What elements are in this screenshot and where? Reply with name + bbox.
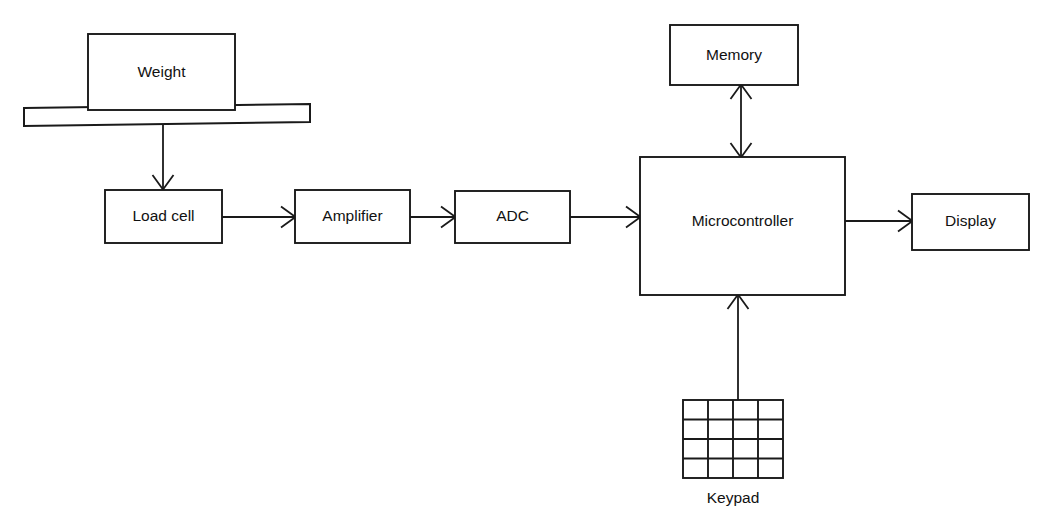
- block-microcontroller-label: Microcontroller: [692, 212, 794, 229]
- block-display[interactable]: Display: [912, 194, 1029, 250]
- block-adc[interactable]: ADC: [455, 191, 570, 243]
- connection-keypad-to-microcontroller: [728, 295, 749, 401]
- block-weight[interactable]: Weight: [88, 34, 235, 110]
- block-adc-label: ADC: [496, 207, 529, 224]
- block-microcontroller[interactable]: Microcontroller: [640, 157, 845, 295]
- block-diagram-canvas: Weight Load cell Amplifier ADC Microcont…: [0, 0, 1048, 530]
- keypad[interactable]: [683, 400, 783, 478]
- connection-amplifier-to-adc: [410, 207, 456, 228]
- block-memory-label: Memory: [706, 46, 762, 63]
- connection-microcontroller-to-display: [845, 211, 913, 232]
- connection-platform-to-load-cell: [153, 124, 174, 190]
- diagram-svg: Weight Load cell Amplifier ADC Microcont…: [0, 0, 1048, 530]
- block-amplifier-label: Amplifier: [322, 207, 382, 224]
- keypad-label: Keypad: [707, 489, 760, 506]
- block-weight-label: Weight: [138, 63, 187, 80]
- block-memory[interactable]: Memory: [670, 25, 798, 85]
- connection-load-cell-to-amplifier: [222, 207, 296, 228]
- block-load-cell-label: Load cell: [132, 207, 194, 224]
- block-load-cell[interactable]: Load cell: [105, 190, 222, 243]
- block-display-label: Display: [945, 212, 996, 229]
- connection-adc-to-microcontroller: [570, 207, 641, 228]
- connection-microcontroller-to-memory: [731, 85, 752, 158]
- block-amplifier[interactable]: Amplifier: [295, 190, 410, 243]
